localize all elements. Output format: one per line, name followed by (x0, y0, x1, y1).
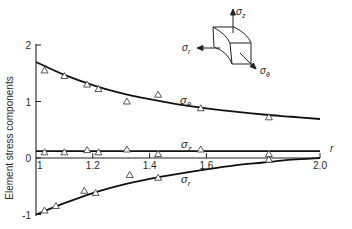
arrow-z-head-icon (231, 9, 236, 15)
triangle-marker-icon (197, 146, 204, 152)
x-tick-label: 1 (37, 160, 43, 171)
curve-sigma-r (36, 158, 320, 215)
inset-label-sigma-z: σz (236, 6, 246, 19)
element-bottom-curve (214, 47, 232, 64)
x-ticks: 11.21.41.62.0 (37, 153, 327, 171)
triangle-marker-icon (84, 147, 91, 153)
label-sigma-r: σr (181, 173, 191, 188)
y-tick-label: 0 (25, 153, 31, 164)
curve-sigma-theta (36, 62, 320, 119)
x-tick-label: 2.0 (313, 160, 327, 171)
stress-chart: 210-1 11.21.41.62.0 Element stress compo… (0, 0, 352, 229)
y-tick-label: -1 (22, 210, 31, 221)
axes (36, 44, 320, 216)
data-points (41, 67, 272, 213)
triangle-marker-icon (123, 146, 130, 152)
label-sigma-theta: σθ (180, 94, 192, 109)
stress-element-inset (197, 9, 256, 69)
triangle-marker-icon (126, 171, 133, 177)
y-tick-label: 1 (25, 97, 31, 108)
element-top (213, 27, 251, 43)
curves (36, 62, 320, 215)
y-axis-label: Element stress components (4, 76, 15, 199)
y-tick-label: 2 (25, 40, 31, 51)
triangle-marker-icon (155, 91, 162, 97)
element-left-edge (213, 27, 214, 47)
x-tick-label: 1.2 (86, 160, 100, 171)
inset-label-sigma-theta: σθ (260, 65, 270, 78)
x-axis-label: r (330, 143, 334, 154)
y-ticks: 210-1 (22, 40, 41, 221)
arrow-r-head-icon (197, 46, 203, 51)
inset-label-sigma-r: σr (182, 42, 191, 55)
triangle-marker-icon (265, 156, 272, 162)
triangle-marker-icon (123, 98, 130, 104)
triangle-marker-icon (81, 187, 88, 193)
element-left-curve (213, 27, 230, 43)
x-tick-label: 1.4 (143, 160, 157, 171)
